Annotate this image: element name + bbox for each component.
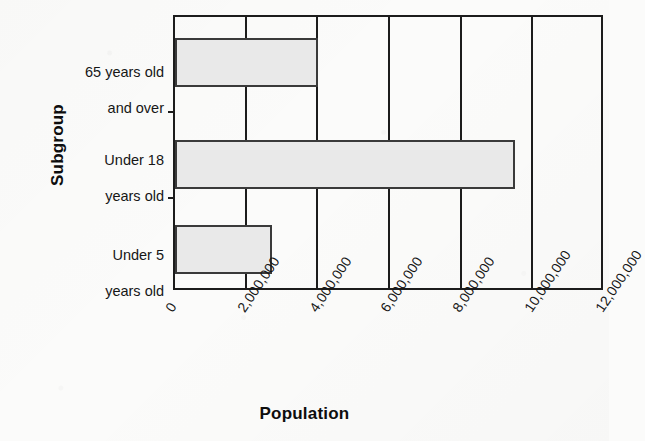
plot-area	[173, 15, 603, 290]
y-axis-tick-2	[168, 197, 175, 199]
x-tick-label-0: 0	[162, 299, 180, 314]
bar-under-18	[175, 140, 515, 189]
category-label-under-5: Under 5 years old	[36, 228, 164, 318]
category-label-line1: 65 years old	[36, 63, 164, 81]
category-label-line1: Under 5	[36, 246, 164, 264]
category-label-65-and-over: 65 years old and over	[36, 45, 164, 135]
gridline-10000000	[531, 17, 533, 288]
bar-under-5	[175, 225, 272, 274]
y-axis-tick-1	[168, 111, 175, 113]
category-label-under-18: Under 18 years old	[36, 133, 164, 223]
bar-65-and-over	[175, 38, 318, 87]
category-label-line2: years old	[36, 187, 164, 205]
category-label-line2: and over	[36, 99, 164, 117]
x-axis-title: Population	[0, 404, 609, 424]
category-label-line2: years old	[36, 282, 164, 300]
category-label-line1: Under 18	[36, 151, 164, 169]
